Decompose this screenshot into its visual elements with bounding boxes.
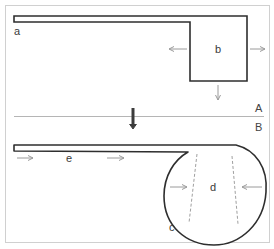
transition-arrow-head [130,124,137,129]
label-c: c [169,221,175,233]
label-d: d [210,181,216,193]
diagram-svg: a b A B e d c [0,0,274,249]
diagram: a b A B e d c [0,0,274,249]
label-a: a [14,25,21,37]
shape-c-e [14,145,266,245]
panel-label-a: A [255,102,263,114]
panel-label-b: B [255,121,262,133]
shape-a-b [14,16,247,81]
label-e: e [66,152,72,164]
label-b: b [215,43,221,55]
